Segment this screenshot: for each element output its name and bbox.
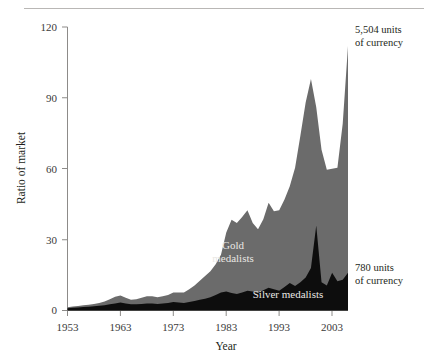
x-tick-label-1963: 1963 xyxy=(109,321,132,333)
y-axis-title: Ratio of market xyxy=(15,131,27,204)
gold-medalists-area xyxy=(68,46,349,311)
y-axis-ticks xyxy=(62,27,68,311)
y-tick-label-90: 90 xyxy=(46,92,58,104)
x-tick-label-1983: 1983 xyxy=(215,321,238,333)
chart-figure: 0 30 60 90 120 1953 1963 1973 1983 1993 … xyxy=(0,0,428,363)
x-axis-title: Year xyxy=(215,340,236,352)
callout-bottom-line2: of currency xyxy=(355,275,404,286)
callout-top-line2: of currency xyxy=(355,37,404,48)
stacked-area-chart: 0 30 60 90 120 1953 1963 1973 1983 1993 … xyxy=(0,0,428,363)
x-tick-label-1973: 1973 xyxy=(162,321,185,333)
callout-top-line1: 5,504 units xyxy=(355,24,402,35)
x-tick-label-2003: 2003 xyxy=(321,321,344,333)
gold-series-label-line2: medalists xyxy=(212,252,254,264)
silver-series-label: Silver medalists xyxy=(253,288,324,300)
y-tick-label-30: 30 xyxy=(46,234,58,246)
y-tick-label-60: 60 xyxy=(46,163,58,175)
x-axis-ticks xyxy=(68,311,333,317)
gold-series-label-line1: Gold xyxy=(222,239,245,251)
y-tick-label-120: 120 xyxy=(41,21,58,33)
x-tick-label-1993: 1993 xyxy=(268,321,291,333)
x-tick-label-1953: 1953 xyxy=(57,321,80,333)
callout-bottom-line1: 780 units xyxy=(355,262,394,273)
y-tick-label-0: 0 xyxy=(52,304,58,316)
